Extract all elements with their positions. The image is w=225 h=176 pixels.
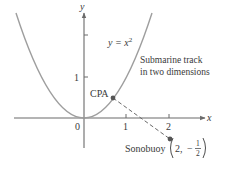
equation-exponent: 2 <box>129 36 133 44</box>
track-annotation-line1: Submarine track <box>140 55 203 65</box>
cpa-point <box>111 96 116 101</box>
x-tick-label-1: 1 <box>123 121 128 132</box>
x-axis-label: x <box>206 112 212 123</box>
coord-x: 2, <box>175 143 183 154</box>
track-annotation-line2: in two dimensions <box>140 67 210 77</box>
frac-denominator: 2 <box>196 149 200 158</box>
origin-label: 0 <box>75 121 80 132</box>
frac-numerator: 1 <box>196 139 200 148</box>
diagram-canvas: y x 0 1 2 1 y = x2 Submarine track in tw… <box>0 0 225 176</box>
sonobuoy-label: Sonobuoy <box>125 143 166 154</box>
equation-main: y = x <box>107 37 129 48</box>
x-tick-label-2: 2 <box>166 121 171 132</box>
sonobuoy-coordinates: 2, − 1 2 <box>171 138 206 158</box>
y-tick-label-1: 1 <box>74 72 79 83</box>
coord-minus: − <box>187 143 193 154</box>
equation-label: y = x2 <box>107 36 133 48</box>
y-axis-label: y <box>79 1 85 12</box>
right-paren <box>203 138 206 158</box>
cpa-label: CPA <box>90 88 109 99</box>
